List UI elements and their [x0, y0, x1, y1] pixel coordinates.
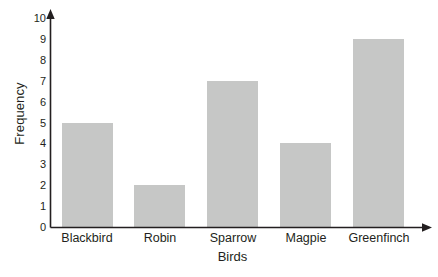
bar-robin[interactable] — [134, 185, 185, 227]
bar-chart: Frequency 10 9 8 7 6 5 4 3 2 1 0 Blackbi… — [0, 0, 438, 277]
x-axis-tick-labels: Blackbird Robin Sparrow Magpie Greenfinc… — [50, 231, 425, 247]
x-tick-label-magpie: Magpie — [286, 231, 327, 246]
x-tick-label-greenfinch: Greenfinch — [348, 231, 409, 246]
bar-greenfinch[interactable] — [353, 39, 404, 227]
x-tick-label-blackbird: Blackbird — [61, 231, 112, 246]
x-tick-label-sparrow: Sparrow — [210, 231, 257, 246]
bar-magpie[interactable] — [280, 143, 331, 227]
bar-blackbird[interactable] — [62, 123, 113, 228]
x-axis-title: Birds — [62, 249, 403, 264]
bar-sparrow[interactable] — [207, 81, 258, 227]
x-tick-label-robin: Robin — [144, 231, 177, 246]
